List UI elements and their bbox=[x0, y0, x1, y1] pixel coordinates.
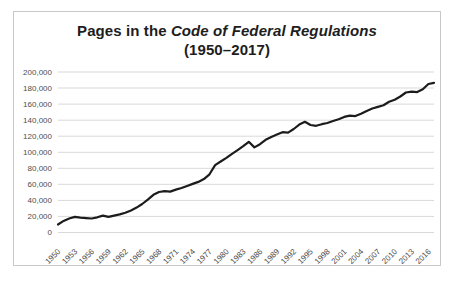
x-tick-label: 1959 bbox=[94, 247, 113, 266]
x-tick-label: 2013 bbox=[397, 247, 416, 266]
x-tick-label: 1950 bbox=[43, 247, 62, 266]
y-tick-label: 160,000 bbox=[23, 100, 52, 109]
x-tick-label: 1953 bbox=[60, 247, 79, 266]
y-tick-label: 20,000 bbox=[28, 212, 53, 221]
x-tick-label: 1962 bbox=[111, 247, 130, 266]
y-tick-label: 180,000 bbox=[23, 84, 52, 93]
screenshot-page: Pages in the Code of Federal Regulations… bbox=[0, 0, 453, 282]
x-tick-label: 1974 bbox=[178, 247, 197, 266]
x-tick-label: 1968 bbox=[144, 247, 163, 266]
x-tick-label: 2010 bbox=[380, 247, 399, 266]
x-tick-label: 1995 bbox=[296, 247, 315, 266]
x-tick-label: 1992 bbox=[279, 247, 298, 266]
x-tick-label: 2004 bbox=[346, 247, 365, 266]
x-tick-label: 1998 bbox=[313, 247, 332, 266]
y-tick-label: 60,000 bbox=[28, 180, 53, 189]
line-chart: 020,00040,00060,00080,000100,000120,0001… bbox=[0, 0, 453, 282]
y-tick-label: 40,000 bbox=[28, 196, 53, 205]
x-tick-label: 1956 bbox=[77, 247, 96, 266]
x-tick-label: 2016 bbox=[414, 247, 433, 266]
x-tick-label: 2001 bbox=[330, 247, 349, 266]
x-tick-label: 1989 bbox=[262, 247, 281, 266]
x-tick-label: 2007 bbox=[363, 247, 382, 266]
y-tick-label: 120,000 bbox=[23, 132, 52, 141]
x-tick-label: 1983 bbox=[229, 247, 248, 266]
y-tick-label: 0 bbox=[48, 228, 53, 237]
x-tick-label: 1980 bbox=[212, 247, 231, 266]
x-tick-label: 1977 bbox=[195, 247, 214, 266]
y-tick-label: 200,000 bbox=[23, 68, 52, 77]
y-tick-label: 80,000 bbox=[28, 164, 53, 173]
y-tick-label: 100,000 bbox=[23, 148, 52, 157]
y-tick-label: 140,000 bbox=[23, 116, 52, 125]
x-tick-label: 1965 bbox=[128, 247, 147, 266]
x-tick-label: 1986 bbox=[245, 247, 264, 266]
x-tick-label: 1971 bbox=[161, 247, 180, 266]
